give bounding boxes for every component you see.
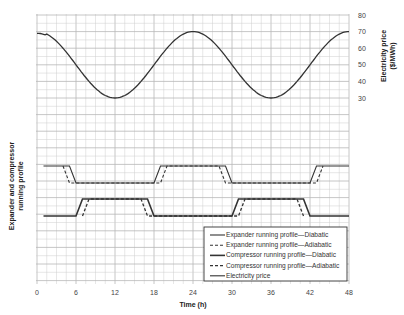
chart: 0612182430364248 304050607080 Time (h) E… xyxy=(0,0,404,315)
x-tick-label: 18 xyxy=(150,289,158,296)
x-tick-label: 24 xyxy=(189,289,197,296)
right-tick-label: 70 xyxy=(358,28,366,35)
x-axis-ticks: 0612182430364248 xyxy=(35,289,353,296)
x-tick-label: 6 xyxy=(74,289,78,296)
svg-text:($/MWh): ($/MWh) xyxy=(389,42,397,69)
legend-item: Expander running profile—Adiabatic xyxy=(226,241,332,249)
right-axis-title: Electricity price ($/MWh) xyxy=(380,30,397,82)
legend-item: Compressor running profile—Diabatic xyxy=(226,251,337,259)
right-tick-label: 80 xyxy=(358,12,366,19)
svg-text:Expander and compressor: Expander and compressor xyxy=(8,142,16,231)
expander-line xyxy=(44,166,350,183)
x-tick-label: 36 xyxy=(267,289,275,296)
x-tick-label: 42 xyxy=(306,289,314,296)
legend: Expander running profile—DiabaticExpande… xyxy=(204,227,347,281)
right-tick-label: 40 xyxy=(358,78,366,85)
legend-item: Expander running profile—Diabatic xyxy=(226,231,329,239)
x-tick-label: 12 xyxy=(111,289,119,296)
x-tick-label: 30 xyxy=(228,289,236,296)
svg-text:Electricity price: Electricity price xyxy=(380,30,388,82)
right-tick-label: 50 xyxy=(358,61,366,68)
x-tick-label: 0 xyxy=(35,289,39,296)
right-axis-ticks: 304050607080 xyxy=(358,12,366,102)
svg-text:running profile: running profile xyxy=(17,161,25,210)
x-tick-label: 48 xyxy=(345,289,353,296)
right-tick-label: 30 xyxy=(358,95,366,102)
right-tick-label: 60 xyxy=(358,45,366,52)
left-axis-title: Expander and compressor running profile xyxy=(8,142,25,231)
legend-item: Electricity price xyxy=(226,272,271,280)
x-axis-title: Time (h) xyxy=(179,301,206,309)
legend-item: Compressor running profile—Adiabatic xyxy=(226,262,340,270)
